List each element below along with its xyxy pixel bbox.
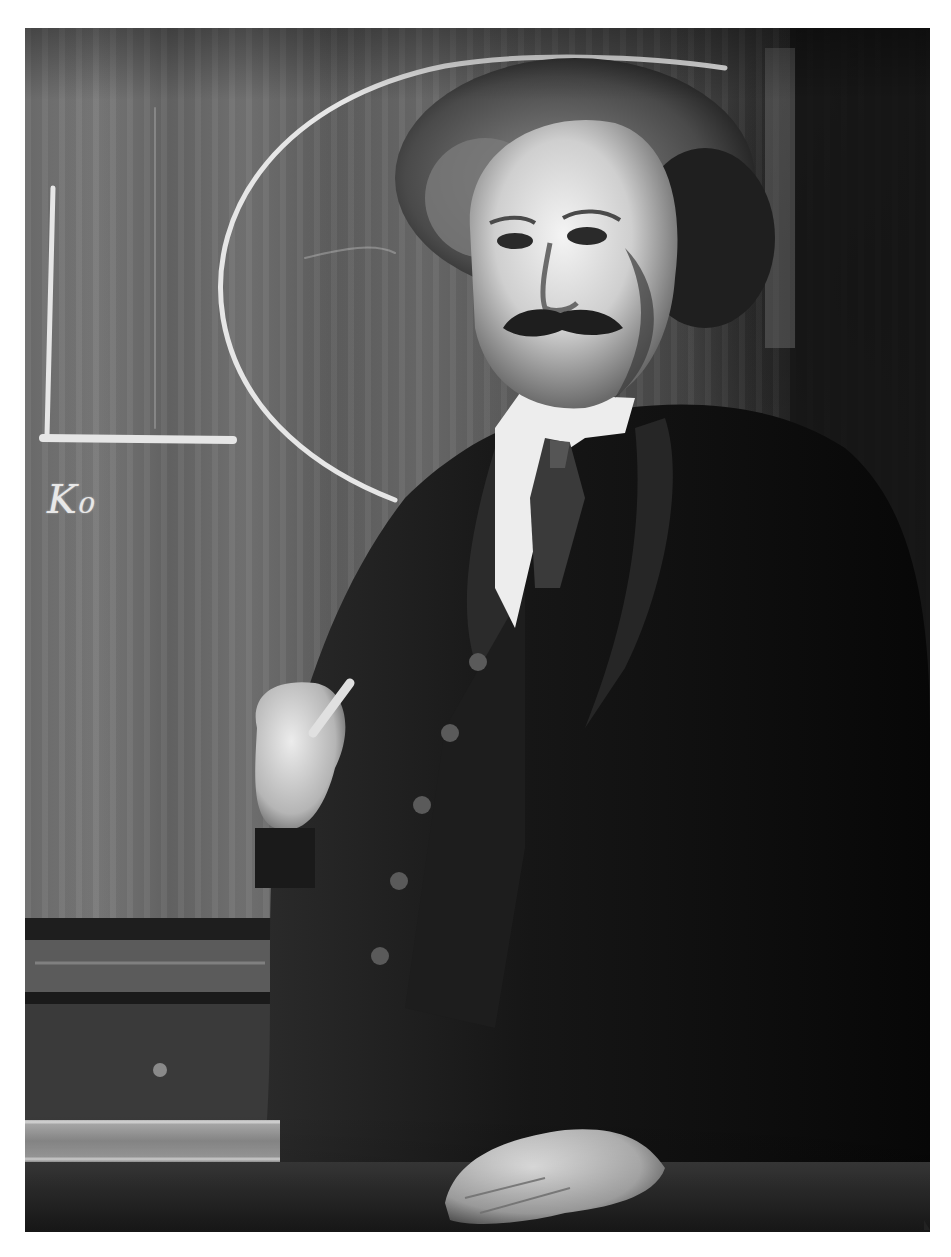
suit	[265, 404, 930, 1232]
portrait-photo: K₀	[25, 28, 930, 1232]
face	[470, 120, 678, 409]
chalkboard	[25, 918, 285, 1124]
chalk-ledge	[25, 1120, 280, 1162]
photo-scene	[25, 28, 930, 1232]
chalk-writing: K₀	[47, 476, 97, 522]
